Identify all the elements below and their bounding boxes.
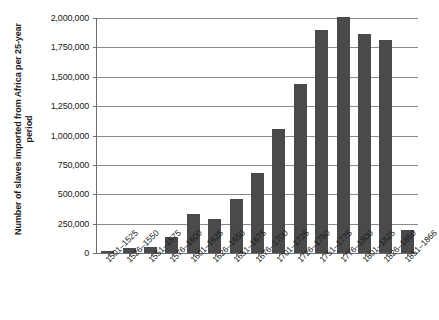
y-tick-mark bbox=[93, 18, 97, 19]
figure-caption-strip bbox=[6, 0, 216, 7]
y-tick-mark bbox=[93, 77, 97, 78]
y-tick-mark bbox=[93, 136, 97, 137]
bar bbox=[315, 30, 328, 253]
y-tick-label: 2,000,000 bbox=[3, 14, 89, 23]
y-tick-mark bbox=[93, 47, 97, 48]
y-tick-label: 1,000,000 bbox=[3, 132, 89, 141]
y-tick-mark bbox=[93, 224, 97, 225]
y-tick-mark bbox=[93, 253, 97, 254]
gridline bbox=[97, 18, 418, 19]
y-tick-label: 750,000 bbox=[3, 161, 89, 170]
bar bbox=[337, 17, 350, 253]
plot-area bbox=[96, 18, 418, 254]
y-tick-label: 1,250,000 bbox=[3, 102, 89, 111]
y-tick-label: 500,000 bbox=[3, 190, 89, 199]
y-tick-mark bbox=[93, 194, 97, 195]
y-tick-label: 250,000 bbox=[3, 220, 89, 229]
y-tick-label: 0 bbox=[3, 249, 89, 258]
y-tick-mark bbox=[93, 165, 97, 166]
y-tick-label: 1,750,000 bbox=[3, 43, 89, 52]
bar bbox=[358, 34, 371, 253]
y-tick-label: 1,500,000 bbox=[3, 73, 89, 82]
bar bbox=[379, 40, 392, 253]
y-tick-mark bbox=[93, 106, 97, 107]
